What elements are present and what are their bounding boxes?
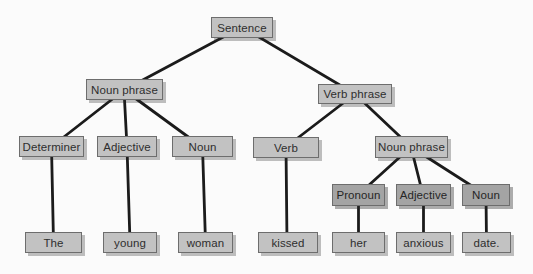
leaf-word-date: date. [462, 232, 511, 253]
node-sentence: Sentence [211, 17, 273, 38]
node-noun-2: Noun [462, 184, 510, 206]
edge-determiner-the [52, 147, 54, 242]
node-adjective-1: Adjective [97, 136, 157, 157]
leaf-word-anxious: anxious [396, 232, 451, 253]
node-noun-phrase-2: Noun phrase [375, 136, 448, 158]
leaf-word-young: young [103, 232, 157, 253]
edge-noun-woman [203, 147, 206, 242]
syntax-tree-diagram: Sentence Noun phrase Verb phrase Determi… [0, 0, 533, 274]
node-verb-phrase: Verb phrase [318, 84, 392, 104]
leaf-word-her: her [332, 232, 385, 253]
leaf-word-the: The [25, 232, 82, 253]
edge-verb-kissed [286, 147, 287, 242]
node-pronoun: Pronoun [332, 184, 385, 206]
edge-adjective-young [127, 147, 130, 242]
node-determiner: Determiner [19, 136, 84, 157]
node-noun-phrase-1: Noun phrase [86, 79, 163, 100]
leaf-word-kissed: kissed [258, 232, 318, 253]
node-verb: Verb [253, 137, 319, 158]
leaf-word-woman: woman [178, 232, 233, 253]
node-noun-1: Noun [172, 136, 233, 157]
node-adjective-2: Adjective [396, 184, 451, 206]
